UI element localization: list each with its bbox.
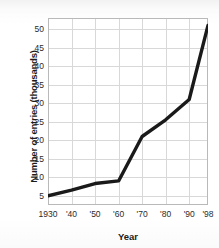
x-tick-label: 1930 bbox=[39, 209, 58, 219]
x-tick-label: '70 bbox=[137, 209, 148, 219]
x-tick-label: '50 bbox=[90, 209, 101, 219]
y-tick-label: 30 bbox=[0, 98, 44, 108]
x-tick-label: '40 bbox=[66, 209, 77, 219]
x-axis-tick-labels: 1930'40'50'60'70'80'90'98 bbox=[48, 209, 208, 223]
x-tick-label: '90 bbox=[184, 209, 195, 219]
y-axis-tick-labels: 5045403530252015105 bbox=[0, 18, 44, 205]
y-tick-label: 40 bbox=[0, 61, 44, 71]
y-tick-label: 35 bbox=[0, 80, 44, 90]
x-tick-label: '98 bbox=[202, 209, 213, 219]
y-tick-label: 45 bbox=[0, 43, 44, 53]
plot-area bbox=[48, 18, 208, 205]
y-tick-label: 20 bbox=[0, 135, 44, 145]
y-tick-label: 10 bbox=[0, 172, 44, 182]
x-axis-title: Year bbox=[48, 231, 208, 242]
chart-canvas bbox=[48, 18, 208, 205]
y-tick-label: 5 bbox=[0, 191, 44, 201]
line-chart-figure: Number of entries (thousands) Year 50454… bbox=[0, 0, 219, 248]
y-tick-label: 15 bbox=[0, 154, 44, 164]
y-tick-label: 25 bbox=[0, 117, 44, 127]
x-tick-label: '80 bbox=[160, 209, 171, 219]
x-tick-label: '60 bbox=[113, 209, 124, 219]
y-tick-label: 50 bbox=[0, 24, 44, 34]
